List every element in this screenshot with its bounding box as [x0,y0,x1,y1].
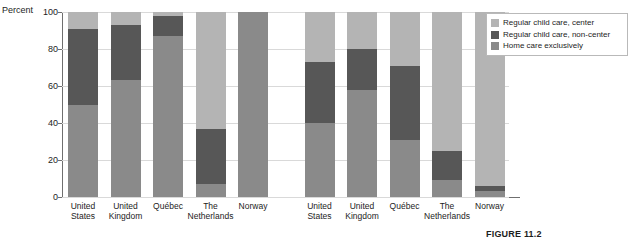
bar-segment-center [390,12,420,66]
stacked-bar[interactable] [305,12,335,197]
stacked-bar[interactable] [153,12,183,197]
stacked-bar[interactable] [432,12,462,197]
legend-item-noncenter[interactable]: Regular child care, non-center [491,30,623,40]
chart-legend: Regular child care, center Regular child… [486,13,628,56]
y-axis-tick [58,49,62,50]
bar-segment-noncenter [68,29,98,105]
bar-segment-home [390,140,420,197]
x-axis-label: United Kingdom [103,201,149,221]
legend-swatch-noncenter-icon [491,31,499,39]
bar-segment-home [68,105,98,198]
bar-segment-center [111,12,141,25]
y-axis-tick-label: 20 [28,155,58,165]
y-axis-tick [58,12,62,13]
bar-segment-home [153,36,183,197]
bar-segment-noncenter [153,16,183,36]
stacked-bar[interactable] [238,12,268,197]
y-axis-tick-label: 0 [28,192,58,202]
x-axis-label: United States [297,201,343,221]
x-axis-label: Norway [230,201,276,211]
legend-swatch-center-icon [491,19,499,27]
bar-segment-center [347,12,377,49]
legend-swatch-home-icon [491,42,499,50]
figure-root: Percent 020406080100 United StatesUnited… [0,0,633,240]
y-axis-tick-label: 40 [28,118,58,128]
stacked-bar[interactable] [347,12,377,197]
x-axis-label: United Kingdom [339,201,385,221]
y-axis-tick [58,160,62,161]
legend-label-noncenter: Regular child care, non-center [503,30,610,40]
bar-segment-noncenter [432,151,462,181]
bar-segment-noncenter [111,25,141,81]
x-axis-label: Québec [145,201,191,211]
bar-segment-noncenter [390,66,420,140]
bar-segment-home [305,123,335,197]
stacked-bar[interactable] [68,12,98,197]
y-axis-tick-label: 60 [28,81,58,91]
y-axis-tick [58,123,62,124]
bar-segment-home [475,191,505,197]
x-axis-label: Québec [382,201,428,211]
bar-segment-home [432,180,462,197]
stacked-bar[interactable] [111,12,141,197]
x-axis-label: The Netherlands [188,201,234,221]
bar-segment-center [196,12,226,129]
bar-segment-center [305,12,335,62]
bar-segment-center [68,12,98,29]
stacked-bar[interactable] [196,12,226,197]
bar-segment-noncenter [347,49,377,90]
plot-area [62,12,509,197]
gridline [62,197,509,198]
figure-caption: FIGURE 11.2 [486,229,542,240]
x-axis-label: United States [60,201,106,221]
y-axis-tick-labels: 020406080100 [28,0,58,200]
bar-segment-home [238,12,268,197]
legend-label-home: Home care exclusively [503,41,583,51]
x-axis-label: Norway [467,201,513,211]
y-axis-tick-label: 100 [28,7,58,17]
bar-segment-noncenter [305,62,335,123]
y-axis-tick-label: 80 [28,44,58,54]
bar-segment-center [432,12,462,151]
x-axis-label: The Netherlands [424,201,470,221]
legend-item-home[interactable]: Home care exclusively [491,41,623,51]
bar-segment-home [347,90,377,197]
y-axis-tick [58,86,62,87]
y-axis-tick [58,197,62,198]
bar-segment-noncenter [196,129,226,185]
legend-label-center: Regular child care, center [503,18,594,28]
legend-item-center[interactable]: Regular child care, center [491,18,623,28]
bar-segment-home [111,80,141,197]
stacked-bar[interactable] [390,12,420,197]
bar-segment-home [196,184,226,197]
